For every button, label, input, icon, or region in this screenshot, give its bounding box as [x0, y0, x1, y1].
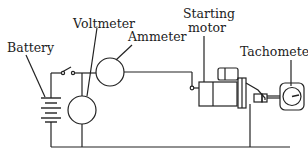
- ammeter-icon: [96, 58, 124, 86]
- battery-label: Battery: [7, 40, 55, 55]
- starting-motor-label-line1: Starting: [183, 6, 235, 21]
- voltmeter-label: Voltmeter: [72, 16, 135, 31]
- tachometer-icon: [280, 83, 304, 110]
- starting-motor-icon: [199, 68, 280, 108]
- circuit-diagram: Battery Voltmeter Ammeter Starting motor…: [0, 0, 308, 155]
- ammeter-label: Ammeter: [127, 29, 187, 44]
- voltmeter-icon: [68, 96, 96, 124]
- starting-motor-label-line2: motor: [188, 20, 226, 35]
- switch-icon: [61, 67, 74, 75]
- battery-icon: [41, 98, 61, 122]
- tachometer-label: Tachometer: [240, 44, 308, 59]
